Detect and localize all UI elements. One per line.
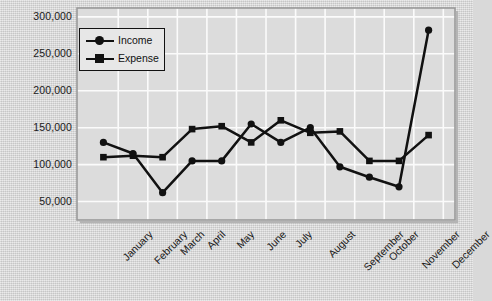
legend-item-income: Income bbox=[80, 32, 166, 50]
x-tick-label: July bbox=[292, 228, 314, 250]
x-tick-label: April bbox=[204, 228, 227, 251]
square-marker-icon bbox=[95, 54, 104, 63]
x-tick-label: August bbox=[326, 228, 358, 260]
x-tick-label: January bbox=[120, 228, 155, 263]
legend-label: Expense bbox=[118, 52, 159, 64]
legend-item-expense: Expense bbox=[80, 50, 166, 68]
chart-legend: Income Expense bbox=[79, 28, 165, 71]
x-tick-label: May bbox=[233, 228, 256, 251]
x-tick-label: June bbox=[264, 228, 289, 253]
legend-label: Income bbox=[118, 34, 152, 46]
circle-marker-icon bbox=[95, 36, 104, 45]
